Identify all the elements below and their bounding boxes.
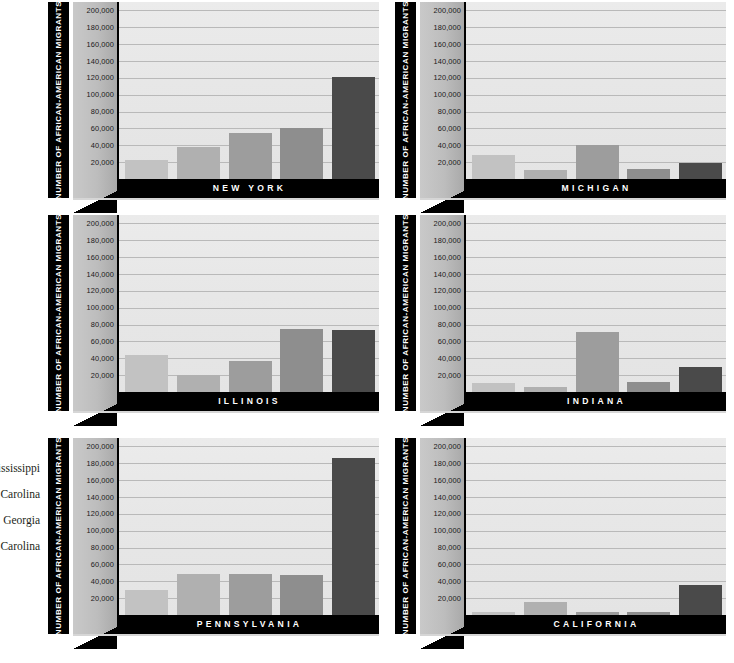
y-axis-title: NUMBER OF AFRICAN-AMERICAN MIGRANTS xyxy=(395,215,416,411)
y-tick-label: 80,000 xyxy=(438,321,461,328)
bar-series xyxy=(119,2,379,179)
panel-underline xyxy=(420,198,726,200)
y-axis-title: NUMBER OF AFRICAN-AMERICAN MIGRANTS xyxy=(48,215,69,411)
y-tick-label: 60,000 xyxy=(91,338,114,345)
margin-legend-notes: MississippiSouth CarolinaGeorgiaNorth Ca… xyxy=(0,455,40,559)
chart-panel-california: NUMBER OF AFRICAN-AMERICAN MIGRANTS200,0… xyxy=(395,438,726,649)
axis-wedge-decoration xyxy=(73,627,117,649)
state-label-band: MICHIGAN xyxy=(464,179,726,198)
state-label-band: CALIFORNIA xyxy=(464,615,726,634)
chart-cell: NUMBER OF AFRICAN-AMERICAN MIGRANTS200,0… xyxy=(395,215,734,438)
y-tick-label: 60,000 xyxy=(438,125,461,132)
y-tick-label: 20,000 xyxy=(438,372,461,379)
y-tick-label: 80,000 xyxy=(438,544,461,551)
bar xyxy=(627,382,670,392)
y-tick-label: 120,000 xyxy=(434,74,461,81)
chart-cell: NUMBER OF AFRICAN-AMERICAN MIGRANTS200,0… xyxy=(48,215,395,438)
bar-series xyxy=(466,215,726,392)
y-axis-tick-strip: 200,000180,000160,000140,000120,000100,0… xyxy=(73,215,117,411)
y-tick-label: 200,000 xyxy=(87,7,114,14)
bar-series xyxy=(466,438,726,615)
bar xyxy=(280,128,323,179)
bar xyxy=(229,133,272,179)
panel-underline xyxy=(73,411,379,413)
plot-area xyxy=(117,2,379,179)
bar xyxy=(627,169,670,179)
y-axis-title: NUMBER OF AFRICAN-AMERICAN MIGRANTS xyxy=(395,438,416,634)
bar xyxy=(125,160,168,179)
panel-underline xyxy=(73,198,379,200)
y-tick-label: 40,000 xyxy=(91,578,114,585)
y-axis-title-label: NUMBER OF AFRICAN-AMERICAN MIGRANTS xyxy=(54,215,62,411)
y-axis-tick-strip: 200,000180,000160,000140,000120,000100,0… xyxy=(420,438,464,634)
y-axis-title-label: NUMBER OF AFRICAN-AMERICAN MIGRANTS xyxy=(401,2,409,198)
bar-series xyxy=(466,2,726,179)
y-tick-label: 160,000 xyxy=(87,41,114,48)
y-tick-label: 100,000 xyxy=(87,91,114,98)
y-tick-label: 20,000 xyxy=(438,159,461,166)
chart-panel-pennsylvania: NUMBER OF AFRICAN-AMERICAN MIGRANTS200,0… xyxy=(48,438,379,649)
y-tick-label: 180,000 xyxy=(87,24,114,31)
y-tick-label: 200,000 xyxy=(434,443,461,450)
margin-note-0: Mississippi xyxy=(0,455,40,481)
axis-wedge-decoration xyxy=(420,191,464,213)
bar xyxy=(576,145,619,179)
state-name: CALIFORNIA xyxy=(551,620,640,629)
state-label-band: ILLINOIS xyxy=(117,392,379,411)
y-tick-label: 100,000 xyxy=(87,527,114,534)
y-tick-label: 120,000 xyxy=(434,287,461,294)
y-tick-label: 40,000 xyxy=(438,578,461,585)
panel-underline xyxy=(420,634,726,636)
y-tick-label: 60,000 xyxy=(91,125,114,132)
bar xyxy=(229,574,272,615)
y-tick-label: 40,000 xyxy=(91,142,114,149)
y-tick-label: 100,000 xyxy=(87,304,114,311)
y-tick-label: 120,000 xyxy=(87,510,114,517)
y-tick-label: 140,000 xyxy=(87,494,114,501)
state-name: NEW YORK xyxy=(210,184,287,193)
y-tick-label: 200,000 xyxy=(434,220,461,227)
y-tick-label: 140,000 xyxy=(87,271,114,278)
bar xyxy=(332,77,375,179)
y-axis-title: NUMBER OF AFRICAN-AMERICAN MIGRANTS xyxy=(48,2,69,198)
chart-grid: NUMBER OF AFRICAN-AMERICAN MIGRANTS200,0… xyxy=(48,2,734,663)
bar xyxy=(125,355,168,392)
bar xyxy=(332,330,375,392)
state-label-band: PENNSYLVANIA xyxy=(117,615,379,634)
y-tick-label: 160,000 xyxy=(434,254,461,261)
y-tick-label: 80,000 xyxy=(91,544,114,551)
y-tick-label: 40,000 xyxy=(438,142,461,149)
y-tick-label: 200,000 xyxy=(434,7,461,14)
y-axis-title-label: NUMBER OF AFRICAN-AMERICAN MIGRANTS xyxy=(54,438,62,634)
bar xyxy=(524,170,567,179)
y-tick-label: 20,000 xyxy=(91,372,114,379)
margin-note-3: North Carolina xyxy=(0,533,40,559)
bar-series xyxy=(119,215,379,392)
y-axis-title-label: NUMBER OF AFRICAN-AMERICAN MIGRANTS xyxy=(54,2,62,198)
y-tick-label: 180,000 xyxy=(87,460,114,467)
axis-wedge-decoration xyxy=(420,627,464,649)
state-name: ILLINOIS xyxy=(215,397,281,406)
bar xyxy=(679,585,722,615)
axis-wedge-decoration xyxy=(73,404,117,426)
bar xyxy=(472,155,515,179)
axis-wedge-decoration xyxy=(73,191,117,213)
y-axis-tick-strip: 200,000180,000160,000140,000120,000100,0… xyxy=(73,2,117,198)
y-tick-label: 200,000 xyxy=(87,443,114,450)
y-tick-label: 80,000 xyxy=(91,108,114,115)
state-label-band: INDIANA xyxy=(464,392,726,411)
bar xyxy=(576,332,619,392)
panel-underline xyxy=(73,634,379,636)
y-axis-tick-strip: 200,000180,000160,000140,000120,000100,0… xyxy=(420,215,464,411)
chart-cell: NUMBER OF AFRICAN-AMERICAN MIGRANTS200,0… xyxy=(395,438,734,663)
y-tick-label: 140,000 xyxy=(434,271,461,278)
plot-area xyxy=(464,438,726,615)
chart-cell: NUMBER OF AFRICAN-AMERICAN MIGRANTS200,0… xyxy=(48,2,395,215)
y-tick-label: 80,000 xyxy=(438,108,461,115)
bar xyxy=(177,147,220,179)
chart-panel-illinois: NUMBER OF AFRICAN-AMERICAN MIGRANTS200,0… xyxy=(48,215,379,426)
y-tick-label: 120,000 xyxy=(87,74,114,81)
y-axis-title: NUMBER OF AFRICAN-AMERICAN MIGRANTS xyxy=(395,2,416,198)
bar xyxy=(679,163,722,179)
bar xyxy=(280,575,323,615)
